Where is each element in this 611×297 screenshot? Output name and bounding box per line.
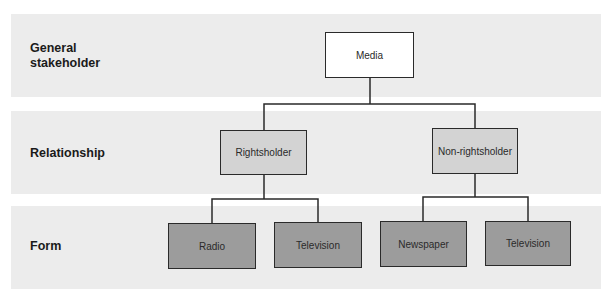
node-television-rightsholder: Television: [274, 222, 362, 268]
connector-rightsholder-to-forms: [212, 175, 318, 223]
node-television-non-rightsholder: Television: [485, 221, 571, 266]
node-non-rightsholder: Non-rightsholder: [432, 128, 518, 174]
connector-media-to-relationship: [264, 78, 475, 130]
node-newspaper: Newspaper: [380, 221, 467, 267]
connector-nonrightsholder-to-forms: [423, 174, 528, 221]
node-radio: Radio: [168, 223, 256, 269]
node-media: Media: [325, 32, 414, 78]
node-rightsholder: Rightsholder: [220, 130, 307, 175]
